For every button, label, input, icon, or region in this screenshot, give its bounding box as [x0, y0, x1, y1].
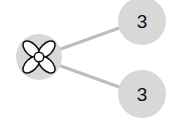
center-node	[16, 34, 62, 80]
child-node-bottom: 3	[118, 70, 166, 118]
edge-top	[58, 27, 122, 50]
node-value: 3	[137, 12, 148, 31]
node-value: 3	[137, 85, 148, 104]
edge-bottom	[58, 65, 122, 88]
flower-icon	[20, 38, 58, 76]
